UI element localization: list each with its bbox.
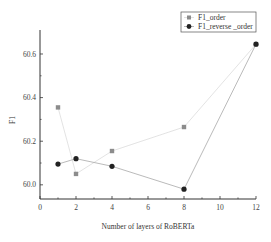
x-tick-label: 12 <box>252 203 260 212</box>
axes: 02468101260.060.260.460.6 <box>23 30 260 212</box>
legend-marker-square <box>187 16 191 20</box>
x-tick-label: 0 <box>38 203 42 212</box>
data-point-circle <box>109 164 114 169</box>
data-point-circle <box>253 42 258 47</box>
series-layer <box>55 42 258 192</box>
series-line <box>58 44 256 189</box>
data-point-square <box>74 172 78 176</box>
data-point-circle <box>73 156 78 161</box>
legend-label: F1_order <box>198 13 226 22</box>
x-tick-label: 10 <box>216 203 224 212</box>
y-tick-label: 60.6 <box>23 50 36 59</box>
x-tick-label: 6 <box>146 203 150 212</box>
legend-marker-circle <box>187 24 192 29</box>
data-point-circle <box>55 162 60 167</box>
y-tick-label: 60.4 <box>23 93 36 102</box>
data-point-square <box>110 149 114 153</box>
y-tick-label: 60.2 <box>23 137 36 146</box>
legend-label: F1_reverse _order <box>198 22 253 31</box>
data-point-square <box>182 125 186 129</box>
y-axis-title: F1 <box>8 116 17 124</box>
legend: F1_orderF1_reverse _order <box>181 12 256 32</box>
series-line <box>58 44 256 174</box>
x-tick-label: 4 <box>110 203 114 212</box>
x-axis-title: Number of layers of RoBERTa <box>102 222 195 231</box>
x-tick-label: 2 <box>74 203 78 212</box>
line-chart: 02468101260.060.260.460.6 Number of laye… <box>0 0 271 242</box>
series-f1-reverse-order <box>55 42 258 192</box>
data-point-circle <box>181 187 186 192</box>
data-point-square <box>56 105 60 109</box>
x-tick-label: 8 <box>182 203 186 212</box>
y-tick-label: 60.0 <box>23 180 36 189</box>
series-f1-order <box>56 42 258 176</box>
